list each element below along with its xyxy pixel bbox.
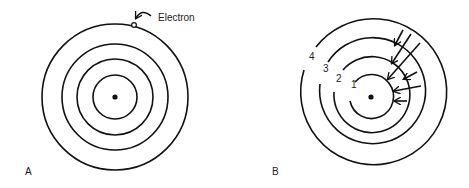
panel-label-b: B xyxy=(272,166,279,177)
nucleus-icon xyxy=(368,94,373,99)
orbit-label-3: 3 xyxy=(323,63,329,74)
panel-label-a: A xyxy=(25,166,32,177)
orbit-label-4: 4 xyxy=(309,51,315,62)
arrow-3-to-1 xyxy=(394,86,421,91)
panel-a: Electron A xyxy=(25,12,195,177)
arrow-4-to-3 xyxy=(395,30,403,45)
arrow-4-to-2 xyxy=(392,34,411,63)
nucleus-icon xyxy=(112,94,117,99)
arrow-3-to-2 xyxy=(404,72,417,79)
atom-diagram: Electron A 1 2 3 4 B xyxy=(0,0,469,188)
electron-label: Electron xyxy=(158,12,195,23)
panel-b: 1 2 3 4 B xyxy=(272,19,447,177)
orbit-4 xyxy=(301,19,447,165)
orbit-label-2: 2 xyxy=(336,73,342,84)
electron-arrow-icon xyxy=(136,12,151,18)
orbit-label-1: 1 xyxy=(351,79,357,90)
electron-icon xyxy=(132,23,137,28)
